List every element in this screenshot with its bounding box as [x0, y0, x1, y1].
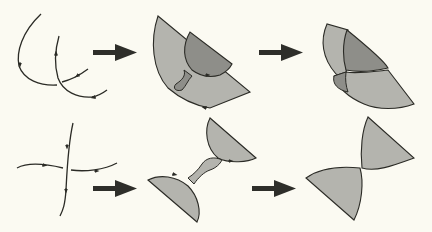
top-step-1-arcs	[18, 14, 107, 98]
arc-left	[18, 14, 57, 85]
arc-branch	[62, 69, 88, 82]
horizontal-arc-left	[17, 164, 63, 168]
twisted-band	[188, 158, 222, 184]
horizontal-arc-right	[71, 163, 117, 171]
arrow-bottom-2	[252, 180, 296, 197]
arrow-bottom-1	[93, 180, 137, 197]
lower-half-disc	[148, 177, 199, 222]
arrow-top-2	[259, 44, 303, 61]
arc-right	[55, 36, 107, 97]
bottom-step-3-bowtie	[306, 117, 414, 220]
vertical-arc	[60, 123, 73, 216]
upper-half-disc	[207, 118, 256, 162]
lower-sector	[306, 167, 362, 220]
join-region	[334, 72, 348, 92]
top-step-2-half-discs	[153, 16, 250, 108]
arrow-top-1	[93, 44, 137, 61]
bottom-step-1-crossing-arcs	[17, 123, 117, 216]
top-step-3-merged-surface	[323, 24, 414, 109]
bottom-step-2-half-discs	[148, 118, 256, 222]
small-half-disc	[185, 32, 232, 76]
diagram-canvas	[0, 0, 432, 232]
upper-sector	[361, 117, 414, 169]
dark-flap	[344, 30, 389, 71]
